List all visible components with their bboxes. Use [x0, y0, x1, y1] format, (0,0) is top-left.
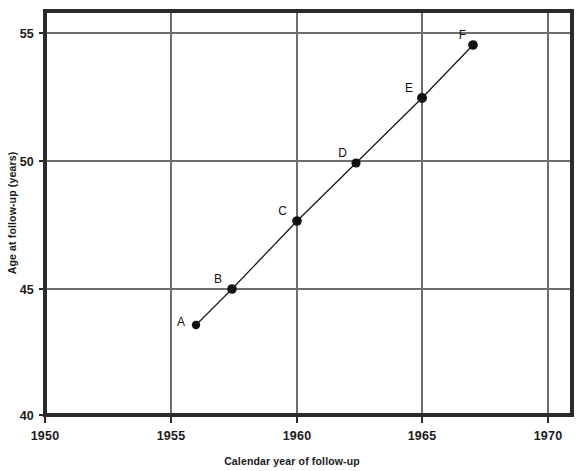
line-chart: 55 50 45 40 1950 1955 1960 1965 1970 Age…: [0, 0, 585, 471]
xtick-label-1960: 1960: [283, 429, 312, 443]
plot-area-background: [45, 11, 572, 415]
y-axis-title: Age at follow-up (years): [6, 152, 18, 275]
point-label-a: A: [177, 315, 185, 329]
point-label-e: E: [405, 81, 413, 95]
data-point-c[interactable]: [292, 216, 302, 226]
xtick-label-1950: 1950: [31, 429, 60, 443]
point-label-b: B: [214, 272, 222, 286]
xtick-label-1955: 1955: [157, 429, 186, 443]
data-point-f[interactable]: [468, 40, 478, 50]
point-label-d: D: [338, 146, 347, 160]
ytick-label-50: 50: [20, 155, 34, 169]
data-point-e[interactable]: [417, 93, 427, 103]
x-axis-title: Calendar year of follow-up: [224, 455, 360, 467]
point-label-c: C: [278, 204, 287, 218]
data-point-b[interactable]: [227, 284, 237, 294]
chart-figure: 55 50 45 40 1950 1955 1960 1965 1970 Age…: [0, 0, 585, 471]
point-label-f: F: [459, 28, 466, 42]
xtick-label-1970: 1970: [534, 429, 563, 443]
ytick-label-40: 40: [20, 409, 34, 423]
data-point-a[interactable]: [192, 321, 200, 329]
data-point-d[interactable]: [351, 158, 360, 167]
ytick-label-45: 45: [20, 283, 34, 297]
ytick-label-55: 55: [20, 27, 34, 41]
xtick-label-1965: 1965: [408, 429, 437, 443]
